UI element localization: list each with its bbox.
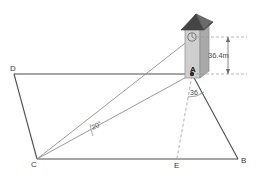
vertex-label-d: D xyxy=(10,64,16,73)
geometry-diagram: 20° 36 xyxy=(0,0,258,181)
angle-label-a: 36 xyxy=(190,89,198,96)
edge-c-d xyxy=(14,74,37,159)
ground-parallelogram xyxy=(14,74,238,159)
dimension-arrow-top xyxy=(226,37,230,42)
tower xyxy=(181,14,213,78)
diagram-canvas: 20° 36 xyxy=(0,0,258,181)
vertex-label-c: C xyxy=(31,160,37,169)
sight-line-c-to-a xyxy=(37,74,192,159)
vertex-label-a: A xyxy=(190,65,196,74)
dimension-arrow-bottom xyxy=(226,69,230,74)
sight-line-c-to-tower-top xyxy=(37,37,193,159)
edge-a-b xyxy=(192,74,238,159)
tower-top-marker-icon xyxy=(188,33,196,41)
height-measure-label: 36.4m xyxy=(208,51,229,60)
sight-lines xyxy=(37,37,193,159)
vertex-label-b: B xyxy=(241,156,246,165)
angle-label-c: 20° xyxy=(90,120,103,131)
vertex-label-e: E xyxy=(174,161,179,170)
